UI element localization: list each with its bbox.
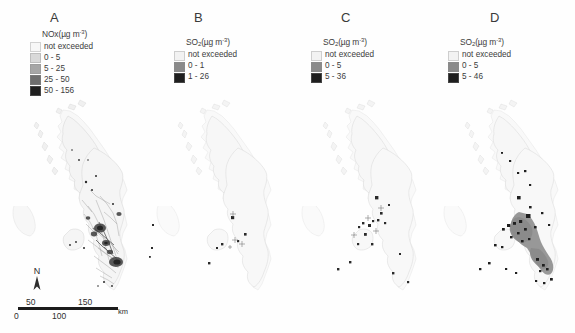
scale-bar-tick-50: 50: [26, 297, 35, 307]
legend-a-swatch-2: [30, 64, 41, 74]
legend-b-swatch-0: [174, 51, 185, 61]
legend-b-units-prefix: (µg m: [201, 37, 222, 47]
legend-d-label-2: 5 - 46: [462, 73, 483, 81]
legend-a-row-2: 5 - 25: [30, 63, 93, 74]
legend-d-label-0: not exceeded: [462, 51, 511, 59]
scale-bar-segment-3: [85, 307, 118, 310]
legend-c-pollutant: SO: [323, 37, 335, 47]
legend-a-row-3: 25 - 50: [30, 74, 93, 85]
legend-a-label-2: 5 - 25: [44, 65, 65, 73]
scale-bar-segment-2: [51, 307, 85, 310]
panel-letter-d: D: [490, 10, 500, 25]
panel-b: B: [144, 0, 288, 333]
north-arrow-icon: [32, 276, 42, 291]
north-arrow: N: [26, 266, 48, 294]
legend-b-row-0: not exceeded: [174, 50, 237, 61]
legend-c-row-1: 0 - 5: [311, 61, 374, 72]
scale-bar-line: [18, 307, 118, 310]
legend-b-label-1: 0 - 1: [188, 62, 204, 70]
legend-d-label-1: 0 - 5: [462, 62, 478, 70]
north-arrow-label: N: [26, 266, 48, 276]
panel-d: D: [431, 0, 575, 333]
legend-a-swatch-1: [30, 53, 41, 63]
legend-a-swatch-0: [30, 42, 41, 52]
legend-a-label-0: not exceeded: [44, 43, 93, 51]
legend-b-pollutant: SO: [186, 37, 198, 47]
legend-b-row-2: 1 - 26: [174, 72, 237, 83]
legend-b-swatch-2: [174, 73, 185, 83]
legend-c-label-2: 5 - 36: [325, 73, 346, 81]
legend-c-title: SO2(µg m-3): [311, 38, 374, 47]
scale-bar-unit: km: [118, 307, 128, 316]
legend-b-title: SO2(µg m-3): [174, 38, 237, 47]
panel-letter-b: B: [194, 10, 203, 25]
legend-b-label-0: not exceeded: [188, 51, 237, 59]
legend-a-row-4: 50 - 156: [30, 85, 93, 96]
scale-bar-tick-150: 150: [78, 297, 92, 307]
panel-c: C: [289, 0, 433, 333]
legend-a-units-prefix: (µg m: [58, 29, 79, 39]
legend-a-units-suffix: ): [85, 29, 88, 39]
panel-letter-c: C: [341, 10, 351, 25]
legend-b: SO2(µg m-3) not exceeded 0 - 1 1 - 26: [174, 38, 237, 83]
scale-bar: 50 150 0 100 km: [6, 296, 126, 326]
legend-a-swatch-4: [30, 86, 41, 96]
scale-bar-tick-100: 100: [52, 311, 66, 321]
figure-canvas: A: [0, 0, 575, 333]
legend-d-row-1: 0 - 5: [448, 61, 511, 72]
legend-c-row-2: 5 - 36: [311, 72, 374, 83]
legend-b-swatch-1: [174, 62, 185, 72]
legend-a-label-1: 0 - 5: [44, 54, 60, 62]
legend-a-label-4: 50 - 156: [44, 87, 74, 95]
panel-a: A: [0, 0, 144, 333]
legend-a-swatch-3: [30, 75, 41, 85]
legend-a-row-1: 0 - 5: [30, 52, 93, 63]
legend-d-row-0: not exceeded: [448, 50, 511, 61]
legend-b-row-1: 0 - 1: [174, 61, 237, 72]
legend-c-swatch-0: [311, 51, 322, 61]
scale-bar-segment-1: [18, 307, 51, 310]
legend-d-title: SO2(µg m-3): [448, 38, 511, 47]
legend-c-row-0: not exceeded: [311, 50, 374, 61]
legend-d-row-2: 5 - 46: [448, 72, 511, 83]
legend-c-label-0: not exceeded: [325, 51, 374, 59]
legend-c: SO2(µg m-3) not exceeded 0 - 5 5 - 36: [311, 38, 374, 83]
legend-a: NOx(µg m-3) not exceeded 0 - 5 5 - 25 25…: [30, 30, 93, 96]
legend-c-units-prefix: (µg m: [338, 37, 359, 47]
legend-d-units-suffix: ): [501, 37, 504, 47]
legend-a-title: NOx(µg m-3): [30, 30, 93, 38]
legend-d-swatch-2: [448, 73, 459, 83]
legend-b-units-suffix: ): [227, 37, 230, 47]
legend-a-label-3: 25 - 50: [44, 76, 70, 84]
legend-d: SO2(µg m-3) not exceeded 0 - 5 5 - 46: [448, 38, 511, 83]
legend-c-units-suffix: ): [364, 37, 367, 47]
legend-c-label-1: 0 - 5: [325, 62, 341, 70]
legend-d-pollutant: SO: [460, 37, 472, 47]
legend-c-swatch-1: [311, 62, 322, 72]
legend-a-row-0: not exceeded: [30, 41, 93, 52]
legend-b-label-2: 1 - 26: [188, 73, 209, 81]
legend-c-swatch-2: [311, 73, 322, 83]
legend-a-pollutant: NOx: [42, 29, 58, 39]
scale-bar-tick-0: 0: [14, 311, 19, 321]
legend-d-swatch-1: [448, 62, 459, 72]
legend-d-units-prefix: (µg m: [475, 37, 496, 47]
panel-letter-a: A: [50, 10, 59, 25]
legend-d-swatch-0: [448, 51, 459, 61]
